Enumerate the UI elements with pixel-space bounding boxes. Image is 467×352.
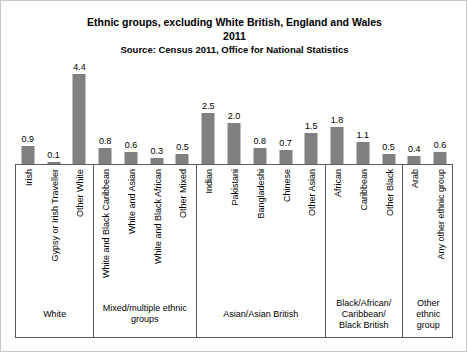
category-label-slot: Other Asian xyxy=(299,165,325,291)
bar-slot: 1.8 xyxy=(324,61,350,164)
bar-value-label: 0.8 xyxy=(99,136,112,147)
category-label-slot: White and Black Caribbean xyxy=(93,165,119,291)
category-label: White and Asian xyxy=(127,169,137,234)
group-label-text: White xyxy=(43,309,66,320)
bar xyxy=(305,133,318,164)
bar-slot: 0.3 xyxy=(144,61,170,164)
category-label: Caribbean xyxy=(359,169,369,211)
bar xyxy=(253,148,266,164)
category-label-slot: White and Black African xyxy=(145,165,171,291)
bar-slot: 0.6 xyxy=(427,61,453,164)
bar-value-label: 0.4 xyxy=(408,144,421,155)
group-label-cell: Otherethnicgroup xyxy=(402,291,454,337)
bar-value-label: 2.5 xyxy=(202,101,215,112)
bar-slot: 2.0 xyxy=(221,61,247,164)
category-label: Other Black xyxy=(385,169,395,216)
category-label: African xyxy=(333,169,343,197)
chart-figure: Ethnic groups, excluding White British, … xyxy=(0,0,467,352)
bar-slot: 0.8 xyxy=(247,61,273,164)
category-label-slot: Other Mixed xyxy=(171,165,197,291)
chart-title-line-2: 2011 xyxy=(1,29,467,43)
group-label-cell: Asian/Asian British xyxy=(196,291,325,337)
category-label: Bangladeshi xyxy=(256,169,266,219)
bar xyxy=(21,146,34,164)
bar-value-label: 1.1 xyxy=(357,130,370,141)
bar xyxy=(408,156,421,164)
bar-value-label: 0.1 xyxy=(47,150,60,161)
bar xyxy=(73,74,86,164)
category-label: Other Mixed xyxy=(178,169,188,218)
category-label-slot: Caribbean xyxy=(351,165,377,291)
group-separator xyxy=(196,165,197,337)
category-label-slot: White and Asian xyxy=(119,165,145,291)
category-label-slot: Other Black xyxy=(377,165,403,291)
bar xyxy=(279,150,292,164)
bar xyxy=(434,152,447,164)
category-label: White and Black African xyxy=(153,169,163,264)
bars-plot-area: 0.90.14.40.80.60.30.52.52.00.80.71.51.81… xyxy=(15,61,453,164)
bar-value-label: 1.5 xyxy=(305,121,318,132)
group-label-text: Otherethnicgroup xyxy=(416,298,440,331)
category-label-slot: Irish xyxy=(16,165,42,291)
group-label-text: Mixed/multiple ethnicgroups xyxy=(103,303,187,325)
bar-value-label: 0.5 xyxy=(176,142,189,153)
bar-slot: 2.5 xyxy=(195,61,221,164)
bar xyxy=(124,152,137,164)
category-label: Indian xyxy=(204,169,214,194)
category-label: Gypsy or Irish Traveller xyxy=(50,169,60,262)
category-label-slot: African xyxy=(325,165,351,291)
bar-value-label: 2.0 xyxy=(228,111,241,122)
bar xyxy=(176,154,189,164)
bar-value-label: 0.9 xyxy=(22,134,35,145)
chart-title-line-1: Ethnic groups, excluding White British, … xyxy=(1,15,467,29)
group-separator xyxy=(402,165,403,337)
category-label-slot: Gypsy or Irish Traveller xyxy=(42,165,68,291)
bar xyxy=(382,154,395,164)
bar-value-label: 0.6 xyxy=(434,140,447,151)
bar-slot: 0.9 xyxy=(15,61,41,164)
bar-slot: 4.4 xyxy=(67,61,93,164)
bar xyxy=(99,148,112,164)
bar-value-label: 4.4 xyxy=(73,62,86,73)
category-label-band: IrishGypsy or Irish TravellerOther White… xyxy=(15,164,453,338)
bar-slot: 0.7 xyxy=(273,61,299,164)
category-label: Chinese xyxy=(282,169,292,202)
bar xyxy=(227,123,240,164)
group-label-cell: Mixed/multiple ethnicgroups xyxy=(93,291,196,337)
bar-slot: 1.5 xyxy=(298,61,324,164)
group-label-text: Asian/Asian British xyxy=(223,309,298,320)
category-label: Pakistani xyxy=(230,169,240,206)
group-label-cell: Black/African/Caribbean/Black British xyxy=(325,291,402,337)
chart-title-block: Ethnic groups, excluding White British, … xyxy=(1,15,467,57)
bar-slot: 0.4 xyxy=(401,61,427,164)
category-label-slot: Bangladeshi xyxy=(248,165,274,291)
bar xyxy=(331,127,344,164)
category-label: Other Asian xyxy=(307,169,317,216)
category-label-slot: Chinese xyxy=(274,165,300,291)
category-label-slot: Pakistani xyxy=(222,165,248,291)
category-label: White and Black Caribbean xyxy=(101,169,111,278)
category-label: Any other ethnic group xyxy=(436,169,446,260)
bar-value-label: 1.8 xyxy=(331,115,344,126)
category-label: Irish xyxy=(24,169,34,186)
bar-value-label: 0.7 xyxy=(279,138,292,149)
category-label-slot: Indian xyxy=(196,165,222,291)
category-label-slot: Arab xyxy=(402,165,428,291)
category-label: Arab xyxy=(410,169,420,188)
bar-value-label: 0.5 xyxy=(382,142,395,153)
group-label-text: Black/African/Caribbean/Black British xyxy=(336,298,391,331)
bar-slot: 0.1 xyxy=(41,61,67,164)
category-label-slot: Other White xyxy=(68,165,94,291)
group-separator xyxy=(325,165,326,337)
group-label-cell: White xyxy=(16,291,93,337)
category-label: Other White xyxy=(75,169,85,217)
category-label-slot: Any other ethnic group xyxy=(428,165,454,291)
bar-value-label: 0.6 xyxy=(125,140,138,151)
bar-slot: 0.6 xyxy=(118,61,144,164)
chart-source-line: Source: Census 2011, Office for National… xyxy=(1,43,467,57)
bar-slot: 0.8 xyxy=(92,61,118,164)
bar-slot: 0.5 xyxy=(170,61,196,164)
bar-value-label: 0.3 xyxy=(150,146,163,157)
group-separator xyxy=(93,165,94,337)
bar-slot: 1.1 xyxy=(350,61,376,164)
